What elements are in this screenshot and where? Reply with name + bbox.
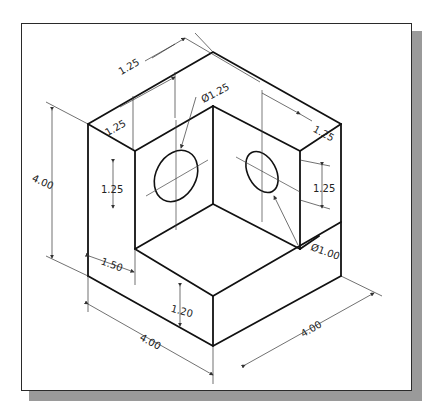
dim-step-height: 1.20 — [170, 303, 194, 319]
dim-height: 4.00 — [30, 172, 55, 191]
isometric-drawing: 1.25 1.25 Ø1.25 1.25 4.00 1.25 1.25 Ø1.0… — [0, 0, 439, 419]
dimension-labels: 1.25 1.25 Ø1.25 1.25 4.00 1.25 1.25 Ø1.0… — [30, 56, 341, 351]
dim-right-hole-diameter: Ø1.00 — [309, 241, 341, 262]
drawing-canvas: 1.25 1.25 Ø1.25 1.25 4.00 1.25 1.25 Ø1.0… — [0, 0, 439, 419]
dimension-lines — [46, 33, 382, 384]
dim-left-hole-offset: 1.25 — [101, 184, 123, 195]
dim-right-length: 4.00 — [299, 319, 324, 340]
dim-top-depth: 1.25 — [117, 56, 142, 77]
dim-left-hole-diameter: Ø1.25 — [199, 81, 231, 105]
dim-right-hole-offset: 1.25 — [313, 183, 335, 194]
dim-step-width: 1.50 — [100, 256, 125, 274]
dim-front-length: 4.00 — [138, 332, 163, 352]
dim-left-top: 1.25 — [103, 117, 128, 138]
